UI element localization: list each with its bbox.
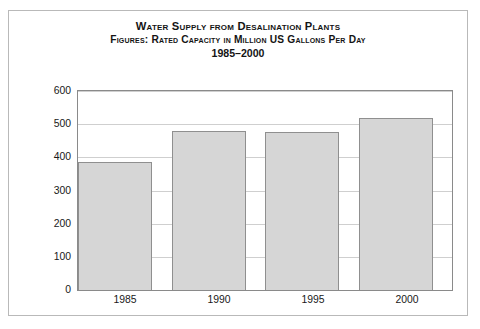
x-axis-tick-1990: 1990	[171, 294, 265, 305]
bar-series	[78, 91, 452, 290]
x-axis-tick-2000: 2000	[359, 294, 453, 305]
x-axis-tick-1985: 1985	[77, 294, 171, 305]
bar-1985	[78, 162, 152, 290]
chart-figure: Water Supply from Desalination Plants Fi…	[8, 10, 468, 316]
x-axis-tick-labels: 1985199019952000	[77, 294, 453, 305]
y-axis-tick-labels: 6005004003002001000	[9, 90, 71, 289]
chart-title: Water Supply from Desalination Plants	[9, 19, 467, 33]
bar-2000	[359, 118, 433, 290]
y-axis-tick-300: 300	[9, 184, 71, 195]
y-axis-tick-200: 200	[9, 217, 71, 228]
x-axis-tick-1995: 1995	[265, 294, 359, 305]
bar-cell	[78, 91, 172, 290]
bar-1995	[265, 132, 339, 290]
y-axis-tick-0: 0	[9, 284, 71, 295]
plot-area	[77, 90, 453, 291]
bar-cell	[359, 91, 453, 290]
chart-title-block: Water Supply from Desalination Plants Fi…	[9, 19, 467, 62]
y-axis-tick-600: 600	[9, 85, 71, 96]
bar-1990	[172, 131, 246, 290]
bar-cell	[172, 91, 266, 290]
y-axis-tick-400: 400	[9, 151, 71, 162]
bar-cell	[265, 91, 359, 290]
chart-subtitle: Figures: Rated Capacity in Million US Ga…	[9, 33, 467, 46]
y-axis-tick-500: 500	[9, 118, 71, 129]
chart-period-label: 1985–2000	[9, 46, 467, 61]
y-axis-tick-100: 100	[9, 250, 71, 261]
